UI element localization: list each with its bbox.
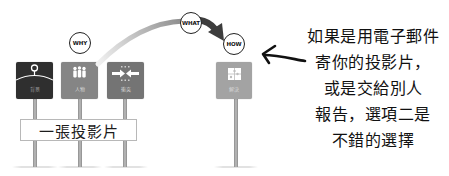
sign-label: 人物 — [61, 86, 98, 92]
collision-arrows-icon — [107, 62, 144, 99]
why-circle: WHY — [69, 32, 91, 54]
note-line: 報告，選項二是 — [298, 102, 448, 128]
note-line: 如果是用電子郵件 — [298, 24, 448, 50]
slide-banner: 一張投影片 — [20, 119, 137, 141]
sign-people: 人物 — [61, 62, 98, 99]
sign-label: 背景 — [16, 86, 53, 92]
puzzle-icon — [216, 62, 252, 99]
note-line: 或是交給別人 — [298, 76, 448, 102]
sign-resolution: 解決 — [216, 62, 252, 99]
what-circle: WHAT — [180, 12, 202, 34]
location-pin-horizon-icon — [16, 62, 53, 99]
sign-label: 衝突 — [107, 86, 144, 92]
sign-label: 解決 — [216, 86, 252, 92]
sign-conflict: 衝突 — [107, 62, 144, 99]
sign-background: 背景 — [16, 62, 53, 99]
note-line: 寄你的投影片， — [298, 50, 448, 76]
handwritten-note: 如果是用電子郵件 寄你的投影片， 或是交給別人 報告，選項二是 不錯的選擇 — [298, 24, 448, 154]
signpost-pole — [234, 97, 238, 167]
people-icon — [61, 62, 98, 99]
note-line: 不錯的選擇 — [298, 128, 448, 154]
how-circle: HOW — [223, 33, 245, 55]
slide-signpost-diagram: 背景 人物 衝突 — [0, 0, 449, 176]
